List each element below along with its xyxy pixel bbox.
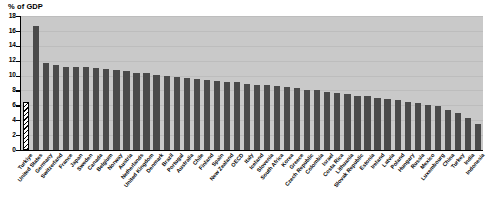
- bar: [455, 113, 461, 150]
- bar: [344, 94, 350, 150]
- bar: [224, 82, 230, 150]
- bar: [143, 73, 149, 150]
- bar: [33, 26, 39, 150]
- bar: [294, 88, 300, 150]
- bar: [405, 102, 411, 150]
- bar: [244, 84, 250, 150]
- bar: [284, 87, 290, 150]
- plot-inner: [21, 16, 483, 150]
- bar: [184, 78, 190, 150]
- bar: [123, 71, 129, 150]
- bar: [395, 100, 401, 150]
- bar: [53, 65, 59, 150]
- y-tick-label: 0: [2, 147, 16, 154]
- y-tick-mark: [16, 76, 20, 77]
- y-tick-mark: [16, 90, 20, 91]
- bar: [214, 81, 220, 150]
- bar: [234, 82, 240, 150]
- bar: [264, 85, 270, 150]
- y-tick-label: 18: [2, 13, 16, 20]
- bar: [274, 86, 280, 150]
- bar: [354, 96, 360, 150]
- gridline: [21, 76, 483, 77]
- y-axis-title: % of GDP: [8, 2, 43, 11]
- y-tick-label: 2: [2, 132, 16, 139]
- y-tick-mark: [16, 150, 20, 151]
- gridline: [21, 16, 483, 17]
- gridline: [21, 90, 483, 91]
- bar: [475, 124, 481, 150]
- bar: [83, 67, 89, 150]
- bar: [445, 110, 451, 150]
- bar: [93, 68, 99, 150]
- bar: [73, 67, 79, 150]
- bar: [435, 106, 441, 150]
- bar: [113, 70, 119, 150]
- y-tick-label: 14: [2, 42, 16, 49]
- y-tick-mark: [16, 16, 20, 17]
- bar: [153, 75, 159, 150]
- bar: [194, 79, 200, 150]
- bar: [133, 73, 139, 150]
- y-tick-label: 12: [2, 57, 16, 64]
- bar: [164, 76, 170, 150]
- y-tick-mark: [16, 46, 20, 47]
- bar: [364, 96, 370, 150]
- y-axis-line: [20, 16, 21, 151]
- bar: [465, 118, 471, 150]
- y-tick-mark: [16, 31, 20, 32]
- y-tick-label: 16: [2, 28, 16, 35]
- gridline: [21, 61, 483, 62]
- bar: [63, 67, 69, 150]
- y-tick-mark: [16, 135, 20, 136]
- bar: [334, 93, 340, 150]
- y-tick-label: 4: [2, 117, 16, 124]
- bar: [304, 90, 310, 150]
- bar: [204, 80, 210, 150]
- bar: [324, 92, 330, 150]
- bar: [103, 69, 109, 150]
- bar: [415, 103, 421, 150]
- y-tick-mark: [16, 105, 20, 106]
- bar: [174, 77, 180, 150]
- bar: [254, 85, 260, 151]
- y-tick-mark: [16, 61, 20, 62]
- chart-container: % of GDP 024681012141618 TurkiyeUnited S…: [0, 0, 486, 207]
- y-tick-label: 6: [2, 102, 16, 109]
- gridline: [21, 46, 483, 47]
- bar: [425, 105, 431, 150]
- bar: [314, 90, 320, 150]
- bar: [374, 98, 380, 150]
- x-axis-labels: TurkiyeUnited StatesGermanySwitzerlandFr…: [21, 152, 483, 207]
- plot-area: [21, 16, 483, 150]
- y-tick-label: 10: [2, 72, 16, 79]
- y-tick-label: 8: [2, 87, 16, 94]
- bar: [23, 102, 29, 150]
- y-tick-mark: [16, 120, 20, 121]
- bar: [43, 63, 49, 150]
- bar: [384, 99, 390, 150]
- gridline: [21, 31, 483, 32]
